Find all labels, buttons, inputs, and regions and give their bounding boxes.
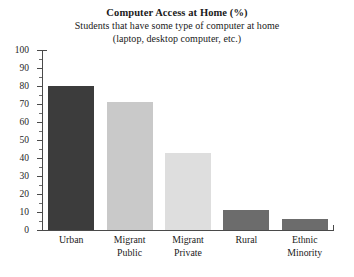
x-label-line: Ethnic <box>276 233 334 246</box>
x-label-line: Migrant <box>159 233 217 246</box>
x-label-migrant-public: MigrantPublic <box>100 233 158 259</box>
x-label-line: Rural <box>217 233 275 246</box>
bar-ethnic-minority <box>282 219 328 230</box>
y-tick-label: 80 <box>20 81 30 91</box>
y-tick-label: 30 <box>20 171 30 181</box>
y-tick-label: 20 <box>20 189 30 199</box>
computer-access-bar-chart: Computer Access at Home (%) Students tha… <box>0 0 354 277</box>
y-tick-label: 60 <box>20 117 30 127</box>
y-tick-label: 10 <box>20 207 30 217</box>
bar-urban <box>48 86 94 230</box>
plot-area: 0102030405060708090100 <box>42 50 334 230</box>
x-label-migrant-private: MigrantPrivate <box>159 233 217 259</box>
x-label-ethnic-minority: EthnicMinority <box>276 233 334 259</box>
x-label-line: Minority <box>276 246 334 259</box>
chart-title-block: Computer Access at Home (%) Students tha… <box>0 6 354 45</box>
x-axis-labels: UrbanMigrantPublicMigrantPrivateRuralEth… <box>42 233 334 275</box>
chart-subtitle-line-1: Students that have some type of computer… <box>0 19 354 32</box>
y-tick-label: 0 <box>24 225 29 235</box>
x-label-urban: Urban <box>42 233 100 246</box>
x-label-line: Urban <box>42 233 100 246</box>
x-label-rural: Rural <box>217 233 275 246</box>
y-tick-label: 70 <box>20 99 30 109</box>
bar-rural <box>223 210 269 230</box>
page-title: Computer Access at Home (%) <box>0 6 354 19</box>
y-tick-label: 50 <box>20 135 30 145</box>
y-tick-label: 90 <box>20 63 30 73</box>
x-label-line: Migrant <box>100 233 158 246</box>
bar-migrant-public <box>107 102 153 230</box>
y-tick-label: 40 <box>20 153 30 163</box>
y-tick-mark: 0 <box>37 230 42 231</box>
x-label-line: Private <box>159 246 217 259</box>
bar-migrant-private <box>165 153 211 230</box>
x-label-line: Public <box>100 246 158 259</box>
bars-layer <box>42 50 334 230</box>
x-axis-line <box>42 230 334 231</box>
chart-subtitle-line-2: (laptop, desktop computer, etc.) <box>0 32 354 45</box>
y-tick-label: 100 <box>15 45 29 55</box>
